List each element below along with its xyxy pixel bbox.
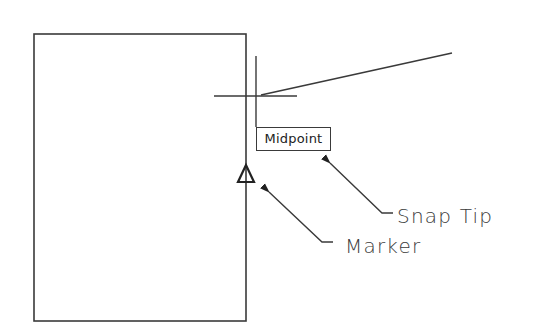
rectangle-object	[34, 34, 246, 321]
marker-callout-label: Marker	[345, 236, 421, 256]
snap-tip-leader	[330, 163, 393, 213]
snap-tip-callout-label: Snap Tip	[397, 206, 493, 226]
rubberband-line	[261, 53, 452, 95]
marker-leader	[269, 192, 333, 242]
cad-drawing-canvas	[0, 0, 542, 334]
snap-tip-tooltip: Midpoint	[256, 127, 331, 151]
